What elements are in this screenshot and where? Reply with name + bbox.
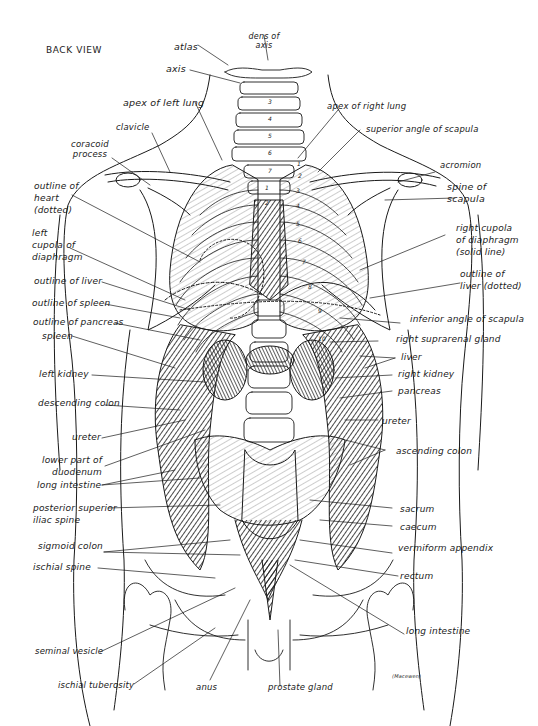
label-spleen: spleen [42,331,73,342]
label-long-intestine-left: long intestine [37,480,101,491]
label-right-cupola: right cupola of diaphragm (solid line) [456,222,519,258]
label-left-kidney: left kidney [39,369,89,380]
label-ischial-tuberosity: ischial tuberosity [58,680,134,691]
vertebra-number: 2 [262,199,272,206]
label-prostate-gland: prostate gland [268,682,333,693]
label-vermiform-appendix: vermiform appendix [398,543,493,554]
label-outline-of-spleen: outline of spleen [32,298,110,309]
vertebra-number: 7 [265,167,275,174]
label-ureter-left: ureter [72,432,101,443]
artist-signature: (Macewen) [392,673,421,680]
label-acromion: acromion [440,160,481,171]
label-right-suprarenal-gland: right suprarenal gland [396,334,501,345]
rib-number: 2 [298,172,302,179]
label-seminal-vesicle: seminal vesicle [35,646,103,657]
vertebra-number: 4 [265,115,275,122]
label-posterior-superior-iliac-spine: posterior superior iliac spine [33,502,117,526]
mediastinum [250,200,288,300]
label-ureter-right: ureter [382,416,411,427]
label-outline-of-pancreas: outline of pancreas [33,317,124,328]
label-sacrum: sacrum [400,504,435,515]
label-sigmoid-colon: sigmoid colon [38,541,103,552]
rib-number: 6 [298,237,302,244]
rib-number: 8 [308,283,312,290]
label-inferior-angle-scapula: inferior angle of scapula [410,314,524,325]
label-outline-of-heart: outline of heart (dotted) [34,180,79,216]
vertebra-number: 6 [265,149,275,156]
label-liver: liver [401,352,422,363]
rib-number: 9 [318,307,322,314]
anatomy-diagram: 3 4 5 6 7 1 2 1 2 3 4 5 6 7 8 9 10 BACK … [0,0,538,726]
label-superior-angle-scapula: superior angle of scapula [366,124,479,135]
torso-line-drawing [0,0,538,726]
label-ascending-colon: ascending colon [396,446,472,457]
rib-number: 7 [302,258,306,265]
label-clavicle: clavicle [116,122,150,133]
label-axis: axis [166,63,186,74]
vertebra-number: 5 [265,132,275,139]
rib-number: 10 [318,335,326,342]
label-left-cupola: left cupola of diaphragm [32,227,83,263]
vertebra-number: 1 [262,184,272,191]
label-apex-right-lung: apex of right lung [327,101,406,112]
label-long-intestine-right: long intestine [406,626,470,637]
rib-number: 4 [296,202,300,209]
label-apex-left-lung: apex of left lung [123,97,204,108]
label-anus: anus [196,682,217,693]
label-outline-of-liver-left: outline of liver [34,276,102,287]
label-atlas: atlas [174,41,198,52]
label-lower-part-duodenum: lower part of duodenum [30,454,102,478]
view-title: BACK VIEW [46,45,102,56]
label-outline-of-liver-right: outline of liver (dotted) [460,268,522,292]
rib-number: 3 [296,187,300,194]
rib-number: 5 [296,220,300,227]
label-rectum: rectum [400,571,433,582]
label-coracoid-process: coracoid process [68,139,112,159]
vertebra-number: 3 [265,98,275,105]
label-spine-of-scapula: spine of scapula [447,181,486,205]
label-dens-of-axis: dens of axis [244,32,284,50]
label-right-kidney: right kidney [398,369,454,380]
label-ischial-spine: ischial spine [33,562,91,573]
rib-number: 1 [297,160,301,167]
label-caecum: caecum [400,522,437,533]
label-descending-colon: descending colon [38,398,120,409]
label-pancreas: pancreas [398,386,441,397]
